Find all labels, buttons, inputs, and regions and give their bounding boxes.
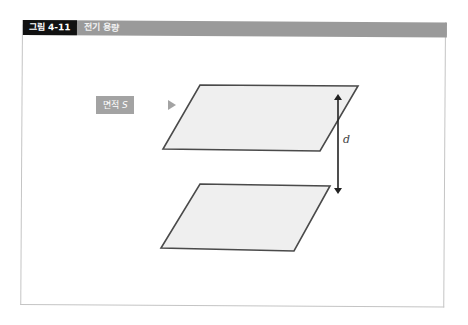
area-symbol: S bbox=[122, 100, 128, 110]
callout-pointer bbox=[168, 100, 176, 110]
distance-label: d bbox=[343, 133, 350, 146]
capacitor-diagram bbox=[0, 0, 468, 325]
bottom-plate bbox=[161, 184, 330, 251]
top-plate bbox=[163, 85, 358, 151]
area-label-text: 면적 bbox=[103, 100, 119, 110]
area-callout: 면적 S bbox=[96, 96, 134, 114]
